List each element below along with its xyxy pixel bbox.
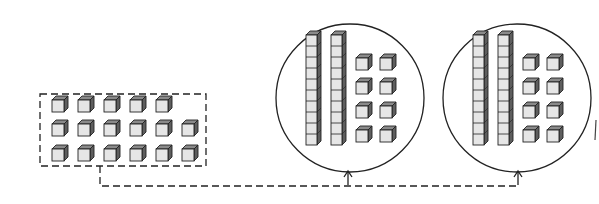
unit-cube	[104, 145, 120, 161]
unit-cube	[182, 120, 198, 136]
unit-cube	[182, 145, 198, 161]
unit-cube	[547, 126, 563, 142]
unit-cube	[356, 102, 372, 118]
tens-rod	[473, 31, 488, 145]
unit-cube	[547, 54, 563, 70]
unit-cube	[356, 54, 372, 70]
unit-cube	[547, 102, 563, 118]
up-arrow-icon	[514, 171, 522, 185]
unit-cube	[547, 78, 563, 94]
tens-rod	[306, 31, 321, 145]
unit-cube	[78, 96, 94, 112]
unit-cube	[52, 96, 68, 112]
group-circle	[443, 24, 591, 172]
unit-cube	[52, 145, 68, 161]
circled-group-1	[276, 24, 424, 172]
unit-cube	[130, 120, 146, 136]
unit-cube	[52, 120, 68, 136]
unit-cube	[130, 96, 146, 112]
diagram-canvas	[0, 0, 599, 204]
circled-groups	[276, 24, 591, 172]
unit-cube	[380, 54, 396, 70]
circled-group-2	[443, 24, 591, 172]
unit-cube	[156, 120, 172, 136]
group-circle	[276, 24, 424, 172]
loose-cube-group	[40, 94, 206, 166]
up-arrow-icon	[344, 171, 352, 185]
unit-cube	[380, 78, 396, 94]
unit-cube	[130, 145, 146, 161]
unit-cube	[156, 96, 172, 112]
dashed-connector	[100, 166, 522, 186]
unit-cube	[380, 102, 396, 118]
unit-cube	[523, 102, 539, 118]
unit-cube	[380, 126, 396, 142]
base-ten-diagram	[0, 0, 599, 204]
unit-cube	[156, 145, 172, 161]
unit-cube	[523, 78, 539, 94]
edge-mark	[595, 120, 596, 140]
unit-cube	[104, 96, 120, 112]
unit-cube	[523, 54, 539, 70]
tens-rod	[498, 31, 513, 145]
unit-cube	[356, 78, 372, 94]
unit-cube	[356, 126, 372, 142]
tens-rod	[331, 31, 346, 145]
unit-cube	[104, 120, 120, 136]
unit-cube	[78, 145, 94, 161]
unit-cube	[78, 120, 94, 136]
unit-cube	[523, 126, 539, 142]
